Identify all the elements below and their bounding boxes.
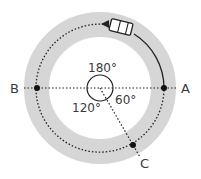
angle-label-180: 180°: [88, 61, 117, 75]
circular-track-diagram: A B C 180° 120° 60°: [0, 0, 201, 179]
point-a: [161, 85, 167, 91]
angle-label-120: 120°: [72, 101, 101, 115]
diagram-canvas: A B C 180° 120° 60°: [0, 0, 201, 179]
label-b: B: [10, 81, 19, 96]
point-c: [130, 142, 136, 148]
label-a: A: [181, 81, 190, 96]
angle-label-60: 60°: [115, 93, 136, 107]
point-b: [34, 85, 40, 91]
label-c: C: [140, 156, 149, 171]
